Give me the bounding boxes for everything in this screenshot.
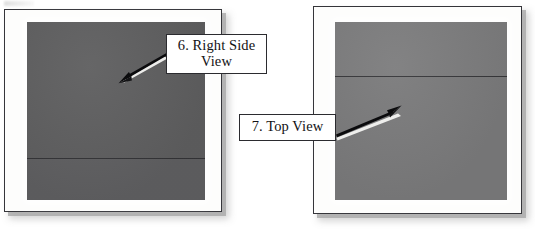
scan-artifact <box>4 1 34 6</box>
callout-line-1: 6. Right Side <box>167 37 266 53</box>
photograph-top-view <box>335 22 507 200</box>
photo-divider-right-side-view <box>27 158 205 159</box>
photo-divider-top-view <box>335 76 507 77</box>
callout-line-1: 7. Top View <box>240 118 335 134</box>
photo-panel-top-view <box>313 6 522 214</box>
figure-canvas: 6. Right Side View 7. Top View <box>0 0 535 230</box>
callout-label-top-view: 7. Top View <box>239 114 336 141</box>
callout-label-right-side-view: 6. Right Side View <box>166 34 267 74</box>
callout-line-2: View <box>167 53 266 69</box>
